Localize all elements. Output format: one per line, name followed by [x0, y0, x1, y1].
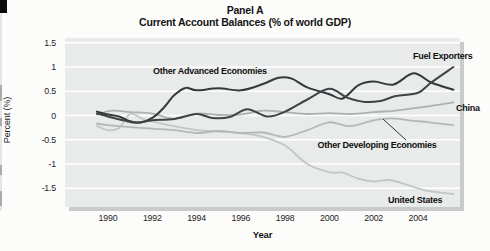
other-developing-callout-line [383, 119, 406, 140]
y-tick-1: 1 [26, 62, 56, 72]
figure-page: { "page": { "artifact_note": "scanned-pa… [0, 0, 490, 251]
series-label-other-advanced-economies: Other Advanced Economies [153, 66, 267, 76]
y-tick-0.5: 0.5 [26, 86, 56, 96]
series-line-fuel-exporters [97, 67, 454, 123]
x-tick-1994: 1994 [179, 213, 215, 223]
series-label-china: China [456, 103, 480, 113]
x-axis-title: Year [180, 229, 345, 240]
y-tick-1.5: 1.5 [26, 38, 56, 48]
x-tick-1990: 1990 [90, 213, 126, 223]
x-tick-1998: 1998 [267, 213, 303, 223]
series-label-united-states: United States [388, 195, 442, 205]
y-axis-title: Percent (%) [2, 55, 14, 185]
series-label-other-developing-economies: Other Developing Economies [307, 140, 447, 150]
x-tick-2002: 2002 [356, 213, 392, 223]
x-tick-2004: 2004 [400, 213, 436, 223]
y-tick-0: 0 [26, 111, 56, 121]
series-label-fuel-exporters: Fuel Exporters [413, 51, 473, 61]
y-tick--0.5: -0.5 [26, 135, 56, 145]
y-tick--1.5: -1.5 [26, 183, 56, 193]
series-line-united-states [97, 114, 454, 194]
x-tick-2000: 2000 [311, 213, 347, 223]
x-tick-1992: 1992 [134, 213, 170, 223]
x-tick-1996: 1996 [223, 213, 259, 223]
y-tick--1: -1 [26, 159, 56, 169]
